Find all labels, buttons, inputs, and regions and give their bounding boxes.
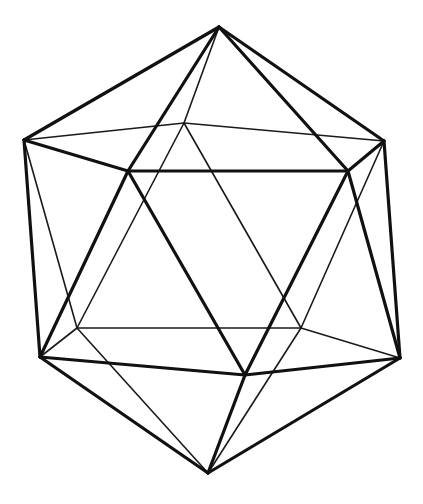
- hidden-edge-Bot-BL: [77, 328, 208, 473]
- icosahedron-figure: [0, 0, 423, 504]
- front-edge-B-R: [348, 141, 384, 171]
- front-edge-LL-C: [40, 357, 245, 375]
- hidden-edge-K-BL: [77, 123, 184, 328]
- hidden-edge-BR-RL: [301, 328, 400, 358]
- front-edge-T-R: [219, 27, 384, 141]
- front-edge-A-C: [128, 171, 245, 375]
- front-edge-L-A: [24, 140, 128, 171]
- hidden-edge-R-BR: [301, 141, 384, 328]
- front-edge-B-C: [245, 171, 348, 375]
- front-edge-T-A: [128, 27, 219, 171]
- front-edge-A-LL: [40, 171, 128, 357]
- front-edge-Bot-LL: [40, 357, 208, 473]
- hidden-edge-K-R: [184, 123, 384, 141]
- front-edges: [24, 27, 400, 473]
- front-edge-L-LL: [24, 140, 40, 357]
- front-edge-T-B: [219, 27, 348, 171]
- hidden-edge-Bot-BR: [208, 328, 301, 473]
- hidden-edges: [24, 27, 400, 473]
